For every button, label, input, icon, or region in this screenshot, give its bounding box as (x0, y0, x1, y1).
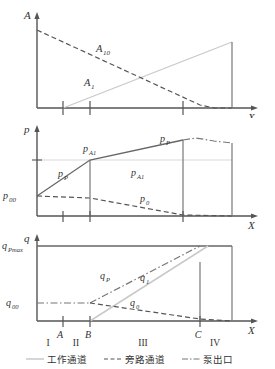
panel-p-x-arrow (251, 213, 258, 218)
xmarker-label-b: B (85, 329, 91, 340)
curve-label-qp: q P (100, 270, 110, 283)
panel-area-chart: A X A 10 A 1 (0, 0, 275, 118)
panel-a-x-arrow (251, 105, 258, 110)
curve-label-a1-main: A (83, 77, 91, 88)
curve-label-a1: A 1 (83, 77, 95, 91)
curve-label-pp-upper-sub: P (165, 139, 170, 146)
panel-p-y-arrow (34, 125, 39, 132)
panel-q-x-arrow (251, 318, 258, 323)
legend-label-pump-outlet: 泵出口 (203, 354, 233, 365)
curve-label-a1-sub: 1 (91, 83, 95, 91)
ytick-label-p00-sub: 00 (9, 196, 17, 204)
panel-pressure-chart: p X p 00 p P p A1 p P p A1 (0, 112, 275, 230)
panel-a-y-axis-label: A (23, 9, 31, 21)
ytick-label-p00: p 00 (2, 190, 17, 204)
curve-label-a10: A 10 (95, 43, 111, 57)
curve-label-q1-sub: 1 (146, 278, 149, 285)
curve-label-q0-main: q (130, 297, 135, 308)
curve-pp-outlet (183, 138, 232, 143)
xmarker-label-a: A (56, 329, 64, 340)
panel-flow-chart: q X q Pmax q 00 q P q 1 q 0 (0, 228, 275, 369)
curve-label-pa1-mid-sub: A1 (136, 173, 144, 180)
ytick-label-p00-main: p (2, 190, 8, 201)
zone-label-i: I (46, 338, 49, 348)
ytick-label-qpmax-main: q (2, 240, 7, 251)
curve-qp (90, 246, 200, 303)
curve-label-p0-main: p (139, 193, 145, 204)
curve-label-pp-lower-sub: P (63, 174, 68, 181)
curve-label-p0-sub: 0 (146, 199, 150, 206)
panel-a-svg: A X A 10 A 1 (0, 0, 275, 118)
curve-label-q0-sub: 0 (136, 303, 140, 310)
curve-label-pa1-mid: p A1 (130, 167, 144, 180)
ytick-label-qpmax-sub: Pmax (7, 246, 23, 253)
curve-label-q1: q 1 (140, 272, 149, 285)
panel-q-y-arrow (34, 234, 39, 241)
panel-a-y-arrow (34, 12, 39, 19)
curve-p0 (37, 196, 232, 216)
legend-label-work-channel: 工作通道 (47, 354, 87, 365)
panel-p-svg: p X p 00 p P p A1 p P p A1 (0, 112, 275, 230)
panel-p-y-axis-label: p (23, 123, 30, 135)
ytick-label-q00: q 00 (6, 297, 19, 310)
xmarker-label-c: C (195, 329, 202, 340)
curve-a10 (37, 30, 232, 108)
curve-label-pp-lower-main: p (57, 168, 63, 179)
curve-label-q1-main: q (140, 272, 145, 283)
legend-label-bypass-channel: 旁路通道 (125, 354, 165, 365)
panel-q-y-axis-label: q (24, 232, 30, 244)
curve-label-qp-main: q (100, 270, 105, 281)
curve-label-pp-upper-main: p (159, 133, 165, 144)
curve-label-pa1-upper-sub: A1 (88, 149, 96, 156)
ytick-label-q00-sub: 00 (12, 303, 19, 310)
curve-label-a10-sub: 10 (103, 49, 111, 57)
figure-root: A X A 10 A 1 (0, 0, 275, 369)
curve-label-pa1-upper-main: p (82, 143, 88, 154)
curve-label-a10-main: A (95, 43, 103, 54)
curve-q0 (90, 303, 232, 321)
zone-label-iv: IV (210, 338, 220, 348)
curve-label-pa1-upper: p A1 (82, 143, 96, 156)
legend: 工作通道 旁路通道 泵出口 (26, 354, 233, 365)
curve-label-pa1-mid-main: p (130, 167, 136, 178)
panel-q-x-axis-label: X (247, 324, 256, 336)
ytick-label-q00-main: q (6, 297, 11, 308)
curve-a1 (63, 42, 232, 108)
curve-label-p0: p 0 (139, 193, 150, 206)
zone-label-ii: II (73, 338, 79, 348)
ytick-label-qpmax: q Pmax (2, 240, 23, 253)
curve-label-q0: q 0 (130, 297, 140, 310)
panel-q-svg: q X q Pmax q 00 q P q 1 q 0 (0, 228, 275, 369)
zone-label-iii: III (138, 338, 148, 348)
curve-label-qp-sub: P (105, 276, 110, 283)
